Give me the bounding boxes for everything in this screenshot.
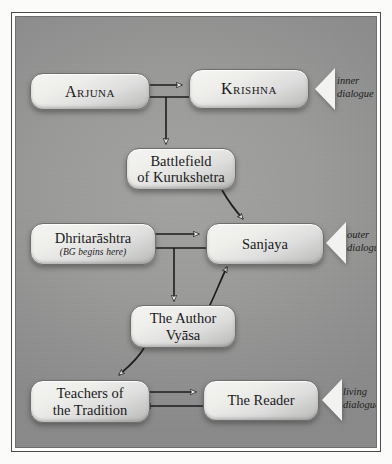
node-dhritarashtra-subtitle: (BG begins here) xyxy=(55,247,132,258)
bracket-triangle-inner-icon xyxy=(315,68,335,110)
diagram-page: Arjuna Krishna Battlefield of Kurukshetr… xyxy=(0,0,392,464)
annotation-living-dialogue: living dialogue xyxy=(343,385,376,411)
annotation-outer-dialogue: outer dialogue xyxy=(347,228,376,254)
node-dhritarashtra[interactable]: Dhritarāshtra (BG begins here) xyxy=(30,223,156,265)
node-reader[interactable]: The Reader xyxy=(203,380,319,421)
diagram-canvas: Arjuna Krishna Battlefield of Kurukshetr… xyxy=(16,17,376,447)
annotation-inner-dialogue: inner dialogue xyxy=(337,74,374,100)
node-battlefield[interactable]: Battlefield of Kurukshetra xyxy=(126,148,236,190)
node-teachers[interactable]: Teachers of the Tradition xyxy=(30,380,150,423)
node-arjuna-label: Arjuna xyxy=(61,83,119,101)
node-krishna[interactable]: Krishna xyxy=(189,69,309,109)
node-krishna-label: Krishna xyxy=(217,80,281,98)
node-vyasa[interactable]: The Author Vyāsa xyxy=(130,305,236,348)
edge-vyasa-to-sanjaya xyxy=(209,267,227,307)
node-dhritarashtra-label: Dhritarāshtra (BG begins here) xyxy=(51,230,136,258)
edge-vyasa-to-teachers xyxy=(119,348,144,375)
node-arjuna[interactable]: Arjuna xyxy=(30,73,150,110)
node-vyasa-label: The Author Vyāsa xyxy=(146,310,220,342)
bracket-triangle-outer-icon xyxy=(326,222,346,264)
node-sanjaya-label: Sanjaya xyxy=(238,236,292,252)
node-dhritarashtra-title: Dhritarāshtra xyxy=(55,230,132,246)
node-sanjaya[interactable]: Sanjaya xyxy=(206,223,324,265)
edge-battlefield-to-sanjaya xyxy=(222,190,243,219)
bracket-triangle-living-icon xyxy=(322,379,342,421)
node-battlefield-label: Battlefield of Kurukshetra xyxy=(133,153,228,185)
node-teachers-label: Teachers of the Tradition xyxy=(49,385,132,417)
node-reader-label: The Reader xyxy=(223,392,298,408)
